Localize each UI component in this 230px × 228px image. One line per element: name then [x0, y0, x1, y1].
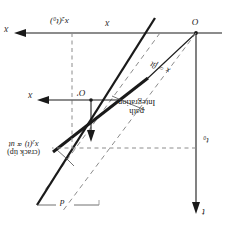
label-d-dimension: d — [60, 198, 65, 207]
label-x2-t0: x₂(t₀) — [50, 17, 69, 26]
figure-canvas: x₂(t₀) x x x O′ O x = βt path Integratio… — [0, 0, 230, 228]
label-x-top: x — [105, 18, 109, 28]
label-origin: O — [192, 17, 199, 26]
label-t-axis: t — [202, 206, 205, 216]
label-t0: t₀ — [203, 136, 209, 145]
label-crack-tip: (crack tip) x₂(t) ∝ ut — [7, 139, 40, 156]
label-integration-path: path Integration — [118, 98, 155, 116]
x-axis — [14, 29, 222, 37]
label-x-prime-arrow: x — [28, 90, 32, 100]
label-integration-path-line1: Integration — [118, 98, 155, 107]
label-origin-prime: O′ — [77, 88, 85, 97]
label-integration-path-line2: path — [118, 107, 155, 116]
label-x-axis-arrow: x — [4, 24, 8, 34]
diagram-vector-layer — [0, 0, 230, 228]
label-crack-tip-line1: x₂(t) ∝ ut — [7, 139, 40, 147]
x-prime-arrowhead — [37, 96, 49, 104]
d-dimension-leaders — [37, 200, 99, 205]
t-prime-arrowhead — [87, 130, 95, 142]
t-axis-arrowhead — [192, 202, 200, 214]
x-axis-arrowhead — [14, 29, 26, 37]
origin-prime-dot — [89, 98, 93, 102]
label-crack-tip-line2: (crack tip) — [7, 147, 40, 155]
t-axis — [192, 33, 200, 214]
